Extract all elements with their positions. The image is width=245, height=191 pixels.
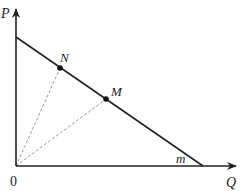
point-m	[103, 96, 109, 102]
origin-label: 0	[10, 174, 17, 189]
q-axis-label: Q	[226, 175, 236, 190]
line-m-label: m	[176, 151, 185, 166]
p-axis-label: P	[0, 6, 10, 21]
line-m	[16, 37, 203, 166]
point-n-label: N	[59, 50, 70, 65]
point-n	[57, 65, 63, 71]
point-m-label: M	[110, 84, 123, 99]
ray-origin-to-m	[16, 99, 106, 166]
diagram-svg: P Q 0 N M m	[0, 0, 245, 191]
diagram-canvas: P Q 0 N M m	[0, 0, 245, 191]
ray-origin-to-n	[16, 68, 60, 166]
